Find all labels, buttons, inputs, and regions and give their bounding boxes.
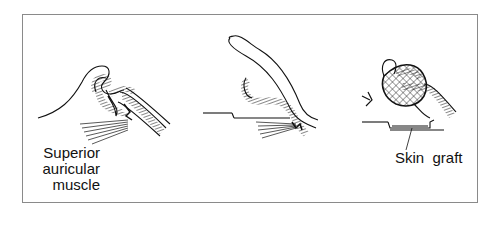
skin-graft-label: Skin graft [395,150,463,166]
panel-2-drawing [203,36,318,138]
panel-3-drawing [362,60,456,150]
muscle-label-line-2: auricular [34,161,100,177]
muscle-label-line-3: muscle [34,177,100,193]
superior-auricular-muscle-label: Superior auricular muscle [34,145,100,193]
panel-1-drawing [38,66,170,144]
muscle-label-line-1: Superior [34,145,100,161]
